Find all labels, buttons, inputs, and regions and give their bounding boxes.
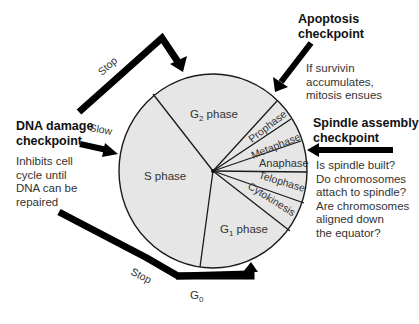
spindle-desc-line: aligned down [316, 213, 409, 227]
dna-damage-desc-line: cycle until [16, 169, 77, 183]
dna-damage-title-line1: DNA damage [16, 119, 93, 134]
spindle-desc-line: Is spindle built? [316, 159, 409, 173]
pie-center [211, 169, 215, 173]
g0-return-head [243, 262, 258, 272]
dna-damage-title-line2: checkpoint [16, 134, 93, 149]
apoptosis-description: If survivin accumulates, mitosis ensues [306, 62, 382, 103]
spindle-title-line2: checkpoint [313, 131, 419, 146]
apoptosis-title-line1: Apoptosis [298, 12, 364, 27]
spindle-desc-line: Are chromosomes [316, 200, 409, 214]
apoptosis-title-line2: checkpoint [298, 27, 364, 42]
spindle-title-line1: Spindle assembly [313, 116, 419, 131]
phase-label-anaphase: Anaphase [259, 157, 309, 169]
dna-damage-desc-line: Inhibits cell [16, 155, 77, 169]
spindle-desc-line: the equator? [316, 227, 409, 241]
dna-damage-checkpoint-title: DNA damage checkpoint [16, 119, 93, 149]
dna-damage-desc-line: repaired [16, 196, 77, 210]
spindle-assembly-checkpoint-title: Spindle assembly checkpoint [313, 116, 419, 146]
dna-damage-desc-line: DNA can be [16, 182, 77, 196]
bottom-stop-label: Stop [129, 265, 154, 286]
top-stop-label: Stop [95, 54, 119, 77]
g0-label: G0 [190, 289, 204, 304]
spindle-desc-line: attach to spindle? [316, 186, 409, 200]
phase-label-s: S phase [144, 170, 186, 182]
apoptosis-desc-line: If survivin [306, 62, 382, 76]
spindle-assembly-description: Is spindle built? Do chromosomes attach … [316, 159, 409, 240]
apoptosis-checkpoint-title: Apoptosis checkpoint [298, 12, 364, 42]
dna-damage-description: Inhibits cell cycle until DNA can be rep… [16, 155, 77, 209]
spindle-desc-line: Do chromosomes [316, 173, 409, 187]
apoptosis-desc-line: accumulates, [306, 76, 382, 90]
apoptosis-desc-line: mitosis ensues [306, 89, 382, 103]
